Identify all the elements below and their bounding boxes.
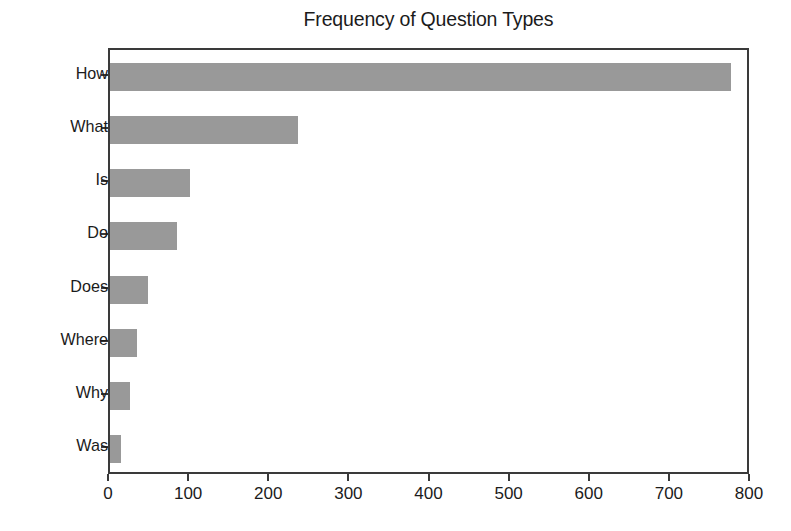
bar-how [110,63,731,91]
x-tick-label-600: 600 [544,484,634,504]
plot-area [108,48,749,474]
x-tick-label-0: 0 [63,484,153,504]
y-axis: HowWhatIsDoDoesWhereWhyWas [0,0,108,531]
x-tick-label-300: 300 [303,484,393,504]
y-tick-label-was: Was [17,436,108,456]
x-tick-label-100: 100 [143,484,233,504]
bar-do [110,222,177,250]
x-tick-label-500: 500 [464,484,554,504]
bar-where [110,329,137,357]
x-tick-mark [668,474,670,481]
chart-title: Frequency of Question Types [130,7,726,31]
y-tick-label-why: Why [17,383,108,403]
bar-what [110,116,298,144]
x-axis: 0100200300400500600700800 [0,474,791,531]
x-tick-label-700: 700 [624,484,714,504]
bars-layer [110,50,747,472]
x-tick-mark [748,474,750,481]
x-tick-mark [588,474,590,481]
x-tick-label-400: 400 [384,484,474,504]
x-tick-mark [187,474,189,481]
y-tick-label-is: Is [17,170,108,190]
bar-chart-figure: Frequency of Question Types HowWhatIsDoD… [0,0,791,531]
bar-is [110,169,190,197]
y-tick-label-what: What [17,117,108,137]
x-tick-mark [107,474,109,481]
x-tick-label-200: 200 [223,484,313,504]
y-tick-label-do: Do [17,223,108,243]
x-tick-mark [347,474,349,481]
bar-does [110,276,148,304]
y-tick-label-where: Where [17,330,108,350]
x-tick-label-800: 800 [704,484,791,504]
y-tick-label-does: Does [17,277,108,297]
x-tick-mark [267,474,269,481]
y-tick-label-how: How [17,64,108,84]
x-tick-mark [508,474,510,481]
bar-why [110,382,130,410]
x-tick-mark [428,474,430,481]
bar-was [110,435,121,463]
